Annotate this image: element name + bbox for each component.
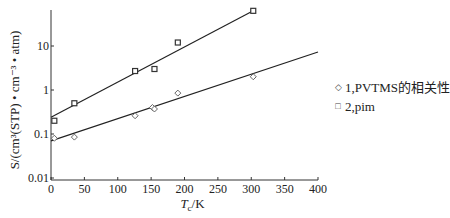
y-tick-label: 10 [37,39,49,53]
square-marker-icon: □ [333,97,343,116]
legend-item-series-1: ◇ 1,PVTMS的相关性 [333,78,450,97]
x-tick-label: 400 [309,182,327,196]
y-axis-label: S/(cm³(STP) • cm⁻³ • atm) [7,31,22,170]
diamond-marker-icon: ◇ [333,78,343,97]
x-tick-label: 100 [109,182,127,196]
y-tick-label: 0.01 [28,171,49,185]
x-tick-label: 300 [242,182,260,196]
fit-line-series-2 [51,11,253,117]
square-marker [152,67,157,72]
square-marker [52,118,57,123]
legend-label: 2,pim [345,97,375,116]
x-tick-label: 350 [276,182,294,196]
legend-item-series-2: □ 2,pim [333,97,450,116]
x-tick-label: 250 [209,182,227,196]
square-marker [72,101,77,106]
diamond-marker [175,90,181,96]
x-tick-label: 200 [176,182,194,196]
x-tick-label: 50 [78,182,90,196]
x-tick-label: 150 [142,182,160,196]
legend: ◇ 1,PVTMS的相关性 □ 2,pim [333,78,450,116]
y-tick-label: 1 [43,83,49,97]
square-marker [251,8,256,13]
x-axis-label: Tc/K [180,196,205,213]
diamond-marker [71,134,77,140]
square-marker [133,69,138,74]
y-tick-label: 0.1 [34,127,49,141]
legend-label: 1,PVTMS的相关性 [345,78,450,97]
square-marker [175,40,180,45]
